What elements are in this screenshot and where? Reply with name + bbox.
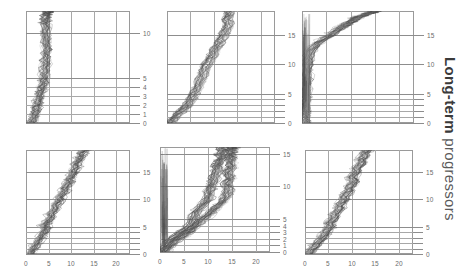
y-tick-mark (275, 111, 285, 112)
gridline-horizontal (305, 254, 413, 255)
y-tick-mark (130, 227, 140, 228)
trace-line (169, 11, 229, 123)
y-tick-mark (130, 114, 140, 115)
plot-area: 05101505101520 (305, 150, 413, 254)
y-tick-label: 0 (143, 251, 147, 258)
y-tick-mark (270, 245, 280, 246)
y-tick-label: 0 (427, 120, 431, 127)
y-tick-mark (130, 254, 140, 255)
trace-line (309, 85, 310, 117)
y-tick-mark (413, 172, 423, 173)
y-tick-mark (413, 249, 423, 250)
plot-area: 051015 (167, 11, 275, 123)
y-tick-mark (130, 87, 140, 88)
y-tick-mark (275, 64, 285, 65)
y-tick-mark (130, 105, 140, 106)
chart-panel: 051015 (167, 11, 275, 123)
y-tick-mark (275, 99, 285, 100)
chart-panel: 05101505101520 (305, 150, 413, 254)
y-tick-mark (130, 249, 140, 250)
y-tick-mark (275, 105, 285, 106)
y-tick-mark (414, 117, 424, 118)
y-tick-mark (275, 123, 285, 124)
y-tick-label: 0 (426, 251, 430, 258)
chart-panel: 012345101505101520 (160, 147, 270, 252)
y-tick-mark (413, 238, 423, 239)
y-tick-label: 1 (283, 242, 287, 249)
y-tick-mark (130, 96, 140, 97)
x-tick-label: 0 (24, 260, 28, 267)
plot-area: 012345101505101520 (160, 147, 270, 252)
y-tick-label: 4 (283, 223, 287, 230)
y-tick-mark (414, 99, 424, 100)
x-tick-label: 5 (326, 260, 330, 267)
y-tick-mark (413, 227, 423, 228)
gridline-horizontal (160, 252, 270, 253)
x-tick-label: 10 (67, 260, 75, 267)
plot-area: 051015 (302, 11, 414, 123)
trace-line (167, 11, 229, 123)
trace-line (167, 11, 231, 123)
y-tick-label: 0 (288, 120, 292, 127)
x-tick-label: 15 (90, 260, 98, 267)
y-tick-label: 10 (283, 183, 291, 190)
y-tick-mark (413, 232, 423, 233)
y-tick-label: 3 (143, 93, 147, 100)
y-tick-mark (270, 232, 280, 233)
y-tick-mark (413, 243, 423, 244)
y-tick-mark (270, 239, 280, 240)
y-tick-mark (130, 33, 140, 34)
data-traces (26, 150, 130, 254)
y-tick-label: 10 (288, 61, 296, 68)
y-tick-label: 0 (283, 249, 287, 256)
y-tick-mark (275, 35, 285, 36)
y-tick-label: 5 (143, 224, 147, 231)
y-tick-label: 15 (283, 151, 291, 158)
data-traces (167, 11, 275, 123)
figure-root: 0123451005101505101505101505101520012345… (0, 0, 467, 277)
y-tick-mark (270, 154, 280, 155)
data-traces (26, 11, 130, 123)
trace-line (26, 150, 79, 254)
y-tick-label: 5 (426, 224, 430, 231)
y-tick-mark (130, 123, 140, 124)
data-traces (160, 147, 270, 252)
data-traces (302, 11, 414, 123)
x-tick-label: 5 (47, 260, 51, 267)
trace-line (168, 11, 227, 123)
y-tick-label: 5 (427, 91, 431, 98)
y-tick-label: 0 (143, 120, 147, 127)
y-tick-label: 15 (288, 32, 296, 39)
trace-line (302, 11, 377, 123)
y-tick-label: 10 (143, 196, 151, 203)
x-tick-label: 0 (303, 260, 307, 267)
y-tick-mark (414, 123, 424, 124)
y-tick-label: 10 (143, 30, 151, 37)
x-tick-label: 0 (158, 258, 162, 265)
x-tick-label: 20 (252, 258, 260, 265)
y-tick-label: 3 (283, 229, 287, 236)
gridline-horizontal (26, 123, 130, 124)
y-tick-mark (414, 105, 424, 106)
gridline-horizontal (26, 254, 130, 255)
trace-line (302, 11, 373, 123)
side-label-bold: Long-term (442, 57, 459, 134)
trace-line (169, 11, 227, 123)
y-tick-label: 5 (143, 75, 147, 82)
trace-line (306, 81, 307, 101)
y-tick-mark (414, 111, 424, 112)
y-tick-label: 10 (427, 61, 435, 68)
data-traces (305, 150, 413, 254)
y-tick-label: 5 (288, 91, 292, 98)
y-tick-label: 15 (427, 32, 435, 39)
gridline-horizontal (302, 123, 414, 124)
y-tick-mark (130, 78, 140, 79)
y-tick-mark (130, 238, 140, 239)
trace-line (168, 11, 228, 123)
y-tick-label: 2 (143, 102, 147, 109)
y-tick-label: 1 (143, 111, 147, 118)
side-axis-label: Long-term progressors (435, 0, 465, 277)
y-tick-mark (414, 35, 424, 36)
plot-area: 01234510 (26, 11, 130, 123)
y-tick-label: 15 (426, 169, 434, 176)
